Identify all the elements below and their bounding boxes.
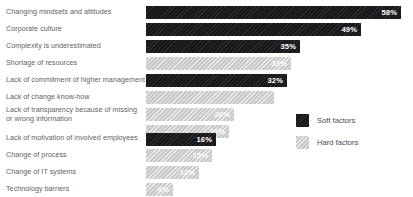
category-label: Lack of commitment of higher management xyxy=(0,76,146,84)
bar-value-label: 12% xyxy=(180,168,200,177)
bar-hard[interactable]: 33% xyxy=(146,57,291,70)
chart-row: Shortage of resources 33% xyxy=(0,55,413,72)
bar-track: 58% xyxy=(146,4,413,21)
legend-swatch-soft-icon xyxy=(296,114,309,127)
bar-value-label: 16% xyxy=(197,135,217,144)
chart-legend: Soft factors Hard factors xyxy=(296,112,358,156)
bar-hard[interactable]: 15% xyxy=(146,149,212,162)
bar-value-label: 33% xyxy=(272,59,292,68)
bar-value-label: 20% xyxy=(215,110,235,119)
category-label: Change of process xyxy=(0,151,146,159)
chart-row: Lack of change know-how xyxy=(0,89,413,106)
chart-row: Complexity is underestimated 35% xyxy=(0,38,413,55)
bar-soft[interactable]: 49% xyxy=(146,23,361,36)
bar-value-label: 49% xyxy=(342,25,362,34)
legend-item-soft-factors[interactable]: Soft factors xyxy=(296,112,358,128)
legend-swatch-hard-icon xyxy=(296,136,309,149)
category-label: Lack of transparency because of missing … xyxy=(0,106,146,123)
bar-value-label: 15% xyxy=(193,151,213,160)
bar-soft[interactable]: 35% xyxy=(146,40,300,53)
category-label: Technology barriers xyxy=(0,185,146,193)
category-label: Changing mindsets and attitudes xyxy=(0,8,146,16)
category-label: Change of IT systems xyxy=(0,168,146,176)
bar-hard[interactable] xyxy=(146,91,274,104)
bar-soft[interactable]: 16% xyxy=(146,133,216,146)
bar-track: 15% xyxy=(146,147,413,164)
bar-track: 20% xyxy=(146,106,413,123)
bar-value-label: 58% xyxy=(382,8,402,17)
horizontal-bar-chart: Changing mindsets and attitudes 58% Corp… xyxy=(0,0,413,197)
bar-track: 49% xyxy=(146,21,413,38)
bar-soft[interactable]: 32% xyxy=(146,74,287,87)
bar-track xyxy=(146,89,413,106)
chart-row: Corporate culture 49% xyxy=(0,21,413,38)
bar-value-label: 35% xyxy=(281,42,301,51)
bar-track: 12% xyxy=(146,164,413,181)
bar-track: 33% xyxy=(146,55,413,72)
bar-value-label: 6% xyxy=(158,185,173,194)
bar-track: 32% xyxy=(146,72,413,89)
category-label: Complexity is underestimated xyxy=(0,42,146,50)
bar-soft[interactable]: 58% xyxy=(146,6,401,19)
bar-hard[interactable]: 12% xyxy=(146,166,199,179)
category-label: Lack of change know-how xyxy=(0,93,146,101)
chart-row: Technology barriers 6% xyxy=(0,181,413,197)
bar-track: 16% xyxy=(146,130,413,147)
bar-track: 6% xyxy=(146,181,413,197)
bar-hard[interactable]: 6% xyxy=(146,183,173,196)
chart-row: Change of IT systems 12% xyxy=(0,164,413,181)
legend-label-soft: Soft factors xyxy=(317,116,355,125)
chart-row: Changing mindsets and attitudes 58% xyxy=(0,4,413,21)
chart-row: Lack of commitment of higher management … xyxy=(0,72,413,89)
category-label: Shortage of resources xyxy=(0,59,146,67)
bar-hard[interactable]: 20% xyxy=(146,108,234,121)
bar-track: 35% xyxy=(146,38,413,55)
legend-label-hard: Hard factors xyxy=(317,138,358,147)
category-label: Corporate culture xyxy=(0,25,146,33)
legend-item-hard-factors[interactable]: Hard factors xyxy=(296,134,358,150)
category-label: Lack of motivation of involved employees xyxy=(0,134,146,142)
bar-value-label: 32% xyxy=(268,76,288,85)
